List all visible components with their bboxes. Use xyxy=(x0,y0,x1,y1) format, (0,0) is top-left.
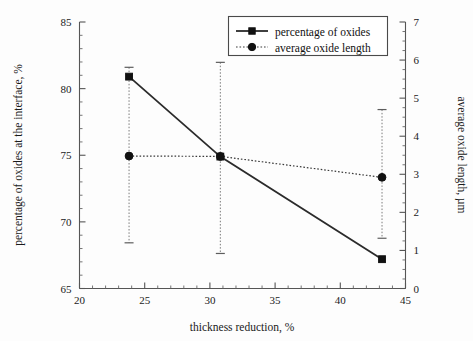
y-left-tick-label: 70 xyxy=(61,216,73,228)
y-axis-right-ticks: 01234567 xyxy=(400,16,420,295)
y-right-tick-label: 4 xyxy=(414,130,420,142)
y-left-tick-label: 65 xyxy=(61,283,73,295)
y-left-tick-label: 75 xyxy=(61,149,73,161)
series-line-1 xyxy=(129,156,382,177)
y-right-tick-label: 1 xyxy=(414,244,420,256)
legend-marker-circle xyxy=(248,43,255,50)
x-tick-label: 45 xyxy=(400,294,412,306)
error-bars-group xyxy=(125,62,387,253)
series-line-0 xyxy=(129,77,382,260)
chart-figure: 6570758085 01234567 202530354045 thickne… xyxy=(0,0,473,341)
y-left-tick-label: 80 xyxy=(61,83,73,95)
y-axis-left-ticks: 6570758085 xyxy=(61,16,86,295)
data-point-circle xyxy=(125,152,133,160)
x-tick-label: 25 xyxy=(139,294,151,306)
chart-plot-area: 6570758085 01234567 202530354045 thickne… xyxy=(0,0,473,341)
data-series-group xyxy=(125,73,386,262)
y-right-tick-label: 5 xyxy=(414,92,420,104)
y-right-tick-label: 6 xyxy=(414,54,420,66)
data-point-square xyxy=(379,256,386,263)
x-tick-label: 30 xyxy=(204,294,216,306)
data-point-circle xyxy=(378,173,386,181)
y-axis-left-title: percentage of oxides at the interface, % xyxy=(12,64,25,246)
y-axis-right-title: average oxide length, µm xyxy=(455,96,468,213)
legend-label-0: percentage of oxides xyxy=(275,26,371,39)
data-point-circle xyxy=(216,152,224,160)
x-axis-title: thickness reduction, % xyxy=(190,321,295,334)
legend-marker-square xyxy=(249,28,255,34)
y-right-tick-label: 3 xyxy=(414,168,420,180)
y-right-tick-label: 2 xyxy=(414,206,420,218)
y-right-tick-label: 7 xyxy=(414,16,420,28)
x-tick-label: 20 xyxy=(74,294,86,306)
y-right-tick-label: 0 xyxy=(414,283,420,295)
legend-label-1: average oxide length xyxy=(275,42,371,55)
y-left-tick-label: 85 xyxy=(61,16,73,28)
x-tick-label: 35 xyxy=(270,294,282,306)
chart-legend: percentage of oxidesaverage oxide length xyxy=(229,17,388,56)
x-axis-ticks: 202530354045 xyxy=(74,283,412,306)
data-point-square xyxy=(126,73,133,80)
x-tick-label: 40 xyxy=(335,294,347,306)
